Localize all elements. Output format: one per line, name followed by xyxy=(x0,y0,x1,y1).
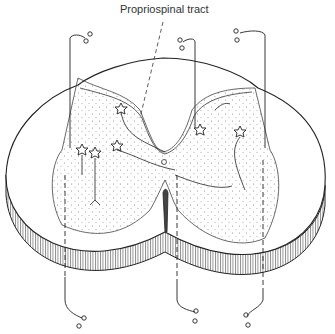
spinal-cord-diagram xyxy=(0,0,335,334)
ventral-fibers xyxy=(65,277,263,318)
